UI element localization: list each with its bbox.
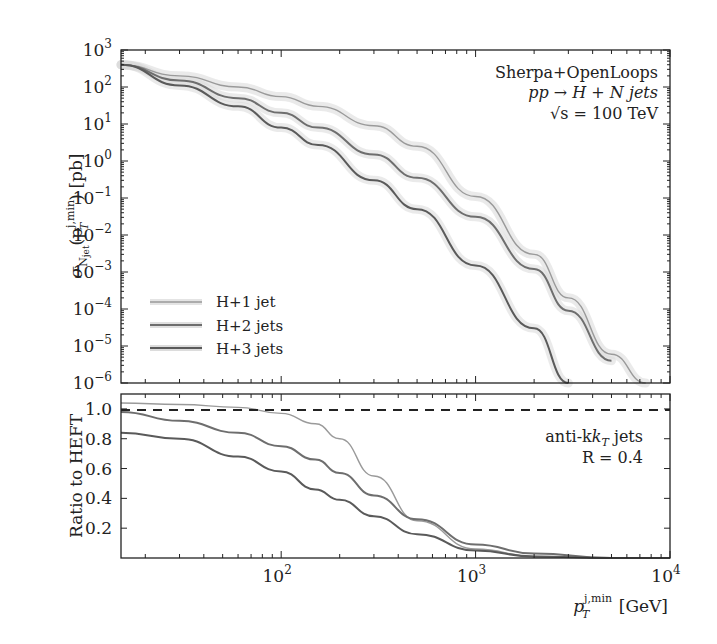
y-tick-label: 10−5 bbox=[73, 333, 112, 356]
legend-item-h2: H+2 jets bbox=[150, 317, 283, 335]
x-axis-title: pj,minT [GeV] bbox=[573, 592, 668, 621]
x-tick-label: 104 bbox=[651, 563, 681, 586]
y-tick-label: 101 bbox=[83, 111, 112, 134]
band-h2 bbox=[121, 65, 611, 361]
main-y-axis-title: σNjet(pj,minT) [pb] bbox=[64, 154, 91, 279]
ratio-annotation: anti-kkT jets R = 0.4 bbox=[545, 427, 643, 467]
x-tick-label: 103 bbox=[457, 563, 486, 586]
annotation-energy: √s = 100 TeV bbox=[550, 104, 659, 123]
x-tick-labels: 102103104 bbox=[263, 563, 681, 586]
ratio-tick-label: 1.0 bbox=[85, 399, 112, 419]
ratio-y-tick-labels: 1.00.80.60.40.2 bbox=[85, 399, 112, 538]
ratio-y-axis-title: Ratio to HEFT bbox=[66, 413, 86, 538]
ratio-panel-frame bbox=[121, 394, 670, 558]
ratio-tick-label: 0.4 bbox=[85, 488, 112, 508]
main-annotation: Sherpa+OpenLoops pp → H + N jets √s = 10… bbox=[495, 63, 658, 123]
annotation-generator: Sherpa+OpenLoops bbox=[495, 63, 658, 82]
y-tick-label: 10−4 bbox=[73, 296, 113, 319]
legend-label-h3: H+3 jets bbox=[216, 340, 283, 358]
chart-canvas: 10310210110010−110−210−310−410−510−6 1.0… bbox=[0, 0, 717, 644]
axis-ticks bbox=[121, 50, 670, 558]
ratio-tick-label: 0.2 bbox=[85, 518, 112, 538]
main-y-tick-labels: 10310210110010−110−210−310−410−510−6 bbox=[73, 37, 113, 393]
annotation-process: pp → H + N jets bbox=[528, 83, 658, 102]
curve-h2 bbox=[121, 65, 611, 361]
legend-label-h2: H+2 jets bbox=[216, 317, 283, 335]
legend-item-h3: H+3 jets bbox=[150, 340, 283, 358]
y-tick-label: 103 bbox=[83, 37, 112, 60]
legend: H+1 jet H+2 jets H+3 jets bbox=[150, 293, 283, 358]
annotation-radius: R = 0.4 bbox=[582, 448, 643, 467]
legend-label-h1: H+1 jet bbox=[216, 293, 276, 311]
x-tick-label: 102 bbox=[263, 563, 292, 586]
legend-item-h1: H+1 jet bbox=[150, 293, 276, 311]
ratio-tick-label: 0.8 bbox=[85, 429, 112, 449]
annotation-algorithm: anti-kkT jets bbox=[545, 427, 643, 449]
y-tick-label: 10−6 bbox=[73, 370, 112, 393]
y-tick-label: 100 bbox=[83, 148, 112, 171]
ratio-tick-label: 0.6 bbox=[85, 459, 112, 479]
y-tick-label: 102 bbox=[83, 74, 112, 97]
